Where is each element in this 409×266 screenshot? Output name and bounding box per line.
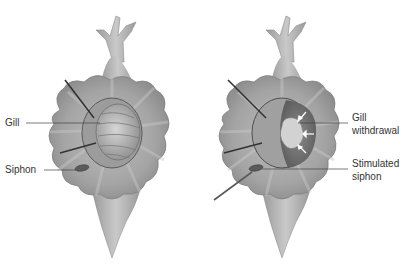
aplysia-right [214,16,348,258]
label-gill-withdrawal-line1: Gill [352,112,366,124]
gill-expanded [96,104,140,160]
aplysia-figure: Gill Siphon Gill withdrawal Stimulated s… [0,0,409,266]
illustration [0,0,409,266]
label-stimulated-siphon-line1: Stimulated [352,158,399,170]
label-gill: Gill [5,117,19,129]
label-gill-withdrawal-line2: withdrawal [352,125,399,137]
label-stimulated-siphon-line2: siphon [352,171,381,183]
label-siphon: Siphon [5,164,36,176]
gill-withdrawn [280,118,303,149]
aplysia-left [26,16,169,258]
